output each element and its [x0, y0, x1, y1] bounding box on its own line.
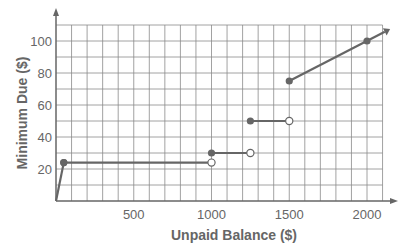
series-line — [289, 32, 385, 81]
y-tick-labels: 20406080100 — [30, 34, 52, 177]
step-function-chart: 20406080100 500100015002000 Unpaid Balan… — [0, 0, 407, 246]
x-tick-label: 2000 — [353, 207, 382, 222]
open-point — [247, 149, 254, 156]
closed-point — [247, 117, 254, 124]
y-tick-label: 40 — [38, 130, 52, 145]
data-series — [56, 28, 390, 201]
y-axis-arrow-icon — [53, 8, 59, 16]
axes — [53, 8, 398, 204]
x-axis-arrow-icon — [390, 198, 398, 204]
x-axis-label: Unpaid Balance ($) — [171, 227, 297, 243]
closed-point — [286, 77, 293, 84]
y-tick-label: 100 — [30, 34, 52, 49]
series-line — [56, 163, 64, 201]
closed-point — [363, 37, 370, 44]
y-tick-label: 80 — [38, 66, 52, 81]
y-tick-label: 60 — [38, 98, 52, 113]
x-tick-label: 500 — [123, 207, 145, 222]
closed-point — [60, 159, 67, 166]
open-point — [208, 159, 215, 166]
grid — [56, 25, 383, 201]
x-tick-label: 1000 — [197, 207, 226, 222]
open-point — [286, 117, 293, 124]
x-tick-labels: 500100015002000 — [123, 207, 382, 222]
x-tick-label: 1500 — [275, 207, 304, 222]
y-tick-label: 20 — [38, 162, 52, 177]
closed-point — [208, 149, 215, 156]
y-axis-label: Minimum Due ($) — [14, 57, 30, 170]
